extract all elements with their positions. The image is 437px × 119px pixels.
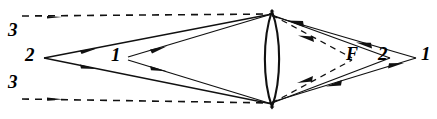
axis-line-3-bottom-arrowhead: [47, 98, 63, 101]
ray-1-to-lens-top: [128, 14, 272, 57]
refracted-top-to-F-arrowhead: [298, 36, 314, 43]
label-focal-point-F: F: [346, 45, 358, 63]
ray-bundle-from-point-2: [44, 14, 272, 104]
label-object-point-2: 2: [25, 45, 35, 64]
lens-right-surface: [272, 11, 279, 107]
label-axis-3-top: 3: [8, 20, 18, 39]
label-axis-3-bottom: 3: [8, 72, 18, 91]
axis-line-3-top: [22, 14, 272, 18]
ray-diagram-canvas: [0, 0, 437, 119]
refracted-rays-to-image-2: [272, 15, 390, 103]
optics-ray-diagram: 3 3 2 1 F 2 1: [0, 0, 437, 119]
label-far-point-1: 1: [421, 44, 431, 63]
lens-left-surface: [265, 11, 272, 107]
axis-line-3-top-stroke: [22, 14, 272, 16]
label-intermediate-point-1: 1: [111, 45, 121, 64]
lens-top-tip: [270, 9, 275, 12]
ray-2-to-lens-top: [44, 14, 272, 58]
label-image-point-2: 2: [378, 44, 388, 63]
biconvex-lens: [265, 9, 279, 110]
refracted-bottom-to-far-1-arrowhead: [388, 63, 404, 69]
axis-line-3-bottom: [22, 98, 272, 103]
refracted-top-to-far-1: [272, 16, 416, 58]
refracted-top-to-far-1-arrowhead: [356, 43, 372, 49]
refracted-bottom-to-F-arrowhead: [297, 76, 313, 83]
lens-bottom-tip: [270, 107, 275, 110]
refracted-rays-to-far-1: [272, 16, 416, 102]
ray-2-to-lens-bottom: [44, 58, 272, 104]
ray-1-to-lens-bottom: [128, 60, 272, 104]
ray-1-to-lens-bottom-arrowhead: [150, 66, 167, 71]
